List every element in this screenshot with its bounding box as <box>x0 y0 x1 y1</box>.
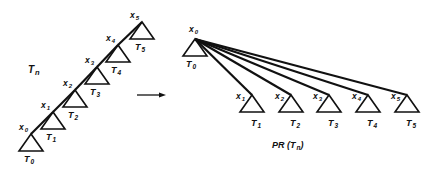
node-label-x3: x3 <box>84 55 95 66</box>
child-subtree-label-t1: T1 <box>251 118 262 129</box>
chain-tree-tn: x0T0x1T1x2T2x3T3x4T4x5T5Tn <box>18 10 154 165</box>
path-reversal-diagram: x0T0x1T1x2T2x3T3x4T4x5T5Tn x0T0x1T1x2T2x… <box>0 0 434 176</box>
child-label-x2: x2 <box>274 91 285 102</box>
subtree-triangle-t0 <box>19 134 43 151</box>
node-label-x2: x2 <box>62 78 73 89</box>
child-subtree-label-t2: T2 <box>290 118 301 129</box>
subtree-label-t3: T3 <box>90 87 101 98</box>
edge-x0-to-x3 <box>195 39 329 95</box>
child-subtree-label-t4: T4 <box>367 118 378 129</box>
arrow-head-icon <box>159 93 166 98</box>
subtree-label-t0: T0 <box>24 154 35 165</box>
tree-title-pr-tn: PR (Tn) <box>272 140 303 151</box>
node-label-x1: x1 <box>40 100 51 111</box>
tree-title-tn: Tn <box>28 64 40 77</box>
child-label-x1: x1 <box>235 91 246 102</box>
node-label-x4: x4 <box>105 33 116 44</box>
root-label-x0: x0 <box>188 24 199 35</box>
subtree-label-t2: T2 <box>68 110 79 121</box>
subtree-label-t4: T4 <box>111 65 122 76</box>
subtree-label-t1: T1 <box>46 132 57 143</box>
subtree-label-t5: T5 <box>135 42 146 53</box>
node-label-x5: x5 <box>129 10 140 21</box>
edge-x0-to-x4 <box>195 39 368 95</box>
child-subtree-label-t5: T5 <box>406 118 417 129</box>
subtree-label-t0-root: T0 <box>186 59 197 70</box>
edge-x0-to-x5 <box>195 39 407 95</box>
reversed-tree-pr-tn: x0T0x1T1x2T2x3T3x4T4x5T5PR (Tn) <box>183 24 419 151</box>
node-label-x0: x0 <box>18 122 29 133</box>
child-subtree-label-t3: T3 <box>328 118 339 129</box>
transform-arrow <box>137 93 166 98</box>
